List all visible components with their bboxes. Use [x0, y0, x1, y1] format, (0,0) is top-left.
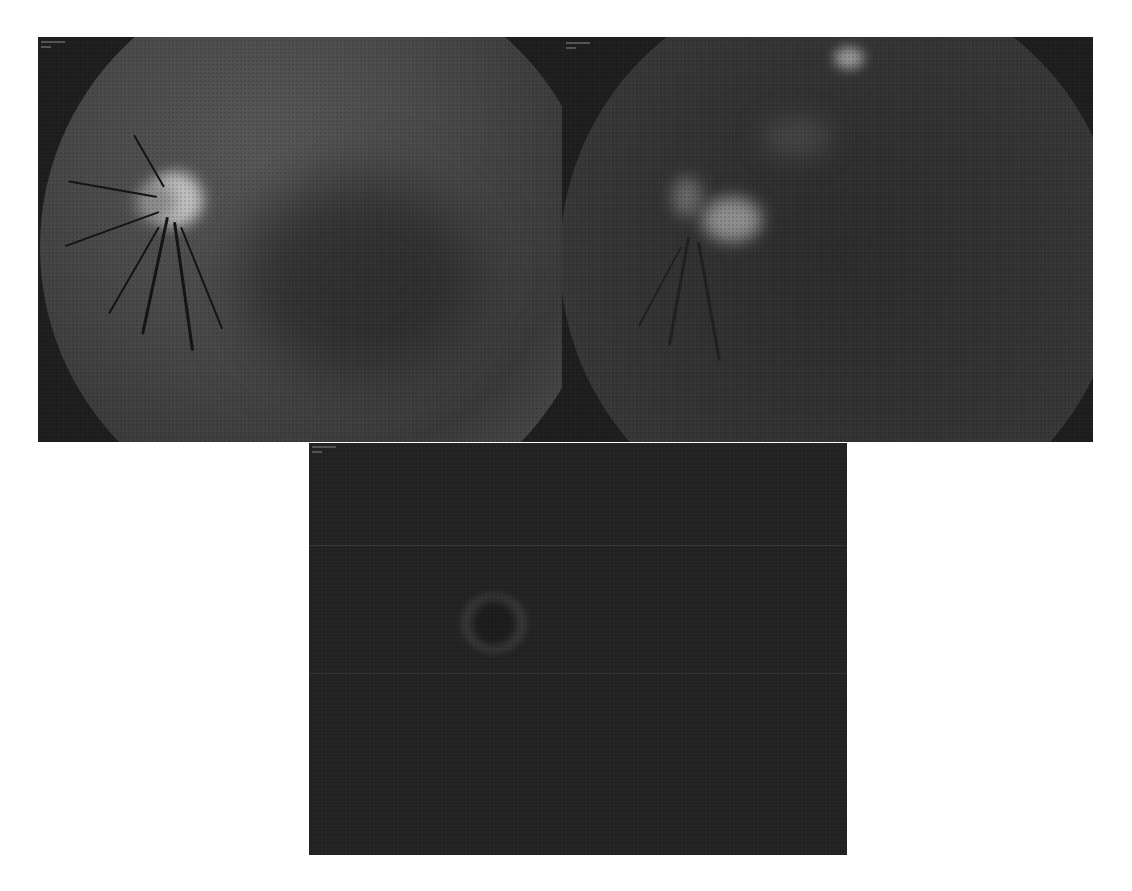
overlay-label — [566, 47, 576, 49]
overlay-label — [312, 446, 336, 448]
noise-overlay — [38, 37, 566, 442]
image-panel-bottom — [309, 443, 847, 855]
overlay-label — [41, 41, 65, 43]
overlay-label — [312, 451, 322, 453]
overlay-label — [566, 42, 590, 44]
image-panel-top-right — [562, 37, 1093, 442]
noise-overlay — [562, 37, 1093, 442]
image-panel-top-left — [38, 37, 566, 442]
overlay-label — [41, 46, 51, 48]
noise-overlay — [309, 443, 847, 855]
